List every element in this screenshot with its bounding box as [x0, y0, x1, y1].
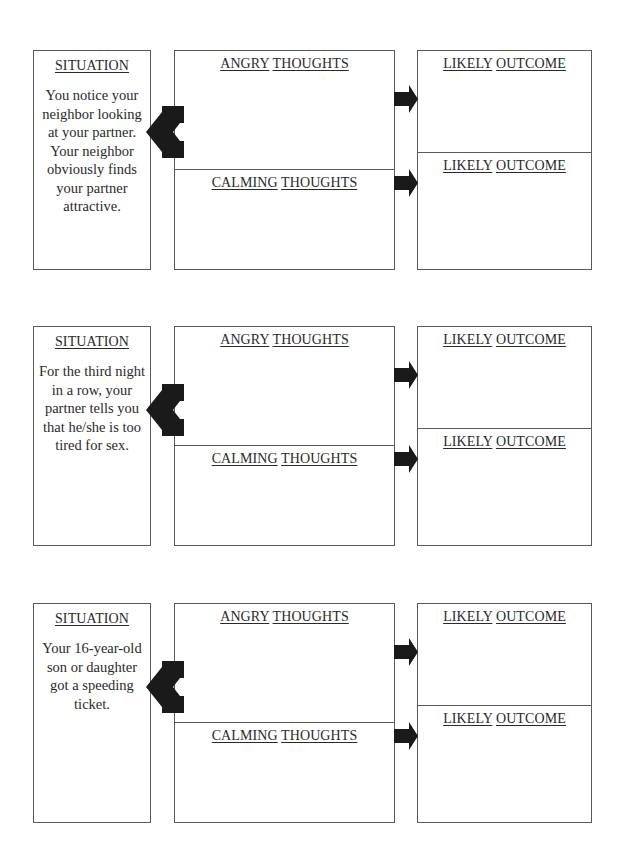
calming-thoughts-pane[interactable]: CALMING THOUGHTS: [175, 169, 394, 269]
thoughts-box: ANGRY THOUGHTS CALMING THOUGHTS: [174, 50, 395, 270]
situation-box: SITUATION For the third night in a row, …: [33, 326, 151, 546]
outcome-heading: LIKELY OUTCOME: [418, 332, 591, 348]
outcome-heading: LIKELY OUTCOME: [418, 711, 591, 727]
situation-text: You notice your neighbor looking at your…: [38, 86, 146, 216]
thoughts-box: ANGRY THOUGHTS CALMING THOUGHTS: [174, 603, 395, 823]
situation-box: SITUATION You notice your neighbor looki…: [33, 50, 151, 270]
outcome-box: LIKELY OUTCOME LIKELY OUTCOME: [417, 603, 592, 823]
right-arrow-icon: [394, 638, 418, 666]
scenario-2: SITUATION For the third night in a row, …: [0, 326, 623, 548]
angry-thoughts-heading: ANGRY THOUGHTS: [175, 56, 394, 72]
calming-outcome-pane[interactable]: LIKELY OUTCOME: [418, 152, 591, 269]
situation-box: SITUATION Your 16-year-old son or daught…: [33, 603, 151, 823]
notched-left-arrow-icon: [146, 106, 184, 158]
outcome-box: LIKELY OUTCOME LIKELY OUTCOME: [417, 50, 592, 270]
angry-thoughts-pane[interactable]: ANGRY THOUGHTS: [175, 327, 394, 447]
angry-outcome-pane[interactable]: LIKELY OUTCOME: [418, 327, 591, 430]
outcome-heading: LIKELY OUTCOME: [418, 609, 591, 625]
situation-heading: SITUATION: [34, 58, 150, 74]
calming-outcome-pane[interactable]: LIKELY OUTCOME: [418, 428, 591, 545]
right-arrow-icon: [394, 85, 418, 113]
angry-outcome-pane[interactable]: LIKELY OUTCOME: [418, 604, 591, 707]
calming-thoughts-heading: CALMING THOUGHTS: [175, 175, 394, 191]
scenario-3: SITUATION Your 16-year-old son or daught…: [0, 603, 623, 825]
angry-thoughts-pane[interactable]: ANGRY THOUGHTS: [175, 604, 394, 724]
calming-thoughts-heading: CALMING THOUGHTS: [175, 451, 394, 467]
right-arrow-icon: [394, 361, 418, 389]
right-arrow-icon: [394, 169, 418, 197]
outcome-box: LIKELY OUTCOME LIKELY OUTCOME: [417, 326, 592, 546]
angry-thoughts-heading: ANGRY THOUGHTS: [175, 609, 394, 625]
calming-thoughts-pane[interactable]: CALMING THOUGHTS: [175, 722, 394, 822]
angry-thoughts-pane[interactable]: ANGRY THOUGHTS: [175, 51, 394, 171]
thoughts-box: ANGRY THOUGHTS CALMING THOUGHTS: [174, 326, 395, 546]
calming-outcome-pane[interactable]: LIKELY OUTCOME: [418, 705, 591, 822]
scenario-1: SITUATION You notice your neighbor looki…: [0, 50, 623, 272]
situation-heading: SITUATION: [34, 611, 150, 627]
right-arrow-icon: [394, 722, 418, 750]
situation-text: For the third night in a row, your partn…: [38, 362, 146, 455]
situation-text: Your 16-year-old son or daughter got a s…: [38, 639, 146, 713]
angry-outcome-pane[interactable]: LIKELY OUTCOME: [418, 51, 591, 154]
notched-left-arrow-icon: [146, 384, 184, 436]
situation-heading: SITUATION: [34, 334, 150, 350]
outcome-heading: LIKELY OUTCOME: [418, 56, 591, 72]
calming-thoughts-heading: CALMING THOUGHTS: [175, 728, 394, 744]
right-arrow-icon: [394, 445, 418, 473]
angry-thoughts-heading: ANGRY THOUGHTS: [175, 332, 394, 348]
notched-left-arrow-icon: [146, 661, 184, 713]
outcome-heading: LIKELY OUTCOME: [418, 158, 591, 174]
outcome-heading: LIKELY OUTCOME: [418, 434, 591, 450]
calming-thoughts-pane[interactable]: CALMING THOUGHTS: [175, 445, 394, 545]
